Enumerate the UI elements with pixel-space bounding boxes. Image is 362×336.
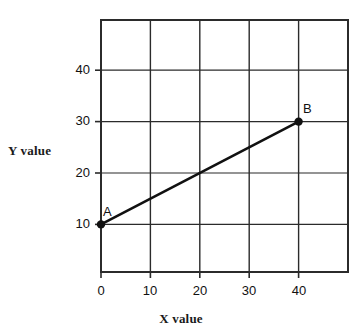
y-tick-label-30: 30 (56, 113, 90, 128)
x-axis-title: X value (0, 311, 362, 327)
plot-frame (101, 20, 348, 272)
data-point-b-label: B (303, 101, 312, 116)
y-tick-label-40: 40 (56, 62, 90, 77)
data-point-a-marker (97, 220, 105, 228)
data-point-b-marker (294, 117, 302, 125)
x-tick-label-30: 30 (232, 283, 266, 298)
y-tick-label-20: 20 (56, 165, 90, 180)
data-point-a-label: A (103, 204, 112, 219)
x-tick-label-20: 20 (183, 283, 217, 298)
y-tick-label-10: 10 (56, 216, 90, 231)
y-axis-title: Y value (8, 143, 51, 159)
x-tick-label-40: 40 (282, 283, 316, 298)
x-tick-label-0: 0 (84, 283, 118, 298)
chart-container: Y value X value 40 30 20 10 0 10 20 30 4… (0, 0, 362, 336)
x-tick-label-10: 10 (133, 283, 167, 298)
